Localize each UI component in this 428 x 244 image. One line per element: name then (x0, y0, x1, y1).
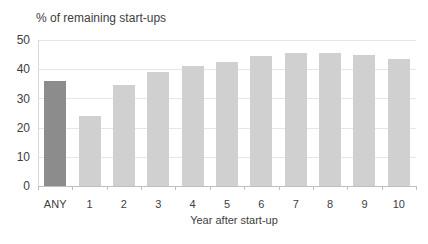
bar-3 (147, 72, 169, 186)
x-tick-mark (244, 186, 245, 190)
x-tick-mark (382, 186, 383, 190)
x-axis-line (38, 186, 416, 187)
bar-9 (353, 55, 375, 186)
x-tick-label-5: 5 (210, 198, 244, 210)
x-tick-label-7: 7 (279, 198, 313, 210)
gridline-50 (38, 40, 416, 41)
y-tick-0: 0 (0, 179, 30, 193)
x-tick-label-any: ANY (38, 198, 72, 210)
x-tick-label-2: 2 (107, 198, 141, 210)
x-tick-mark (141, 186, 142, 190)
x-tick-mark (72, 186, 73, 190)
bar-4 (182, 66, 204, 186)
y-tick-20: 20 (0, 121, 30, 135)
x-tick-mark (175, 186, 176, 190)
x-tick-mark (416, 186, 417, 190)
x-tick-mark (210, 186, 211, 190)
x-tick-mark (38, 186, 39, 190)
x-tick-label-8: 8 (313, 198, 347, 210)
y-axis-line (38, 40, 39, 186)
x-tick-label-1: 1 (73, 198, 107, 210)
x-tick-label-10: 10 (382, 198, 416, 210)
y-tick-50: 50 (0, 33, 30, 47)
x-axis-title: Year after start-up (0, 214, 428, 226)
x-tick-label-3: 3 (141, 198, 175, 210)
bar-any (44, 81, 66, 186)
y-tick-30: 30 (0, 92, 30, 106)
x-tick-label-4: 4 (176, 198, 210, 210)
x-tick-mark (347, 186, 348, 190)
bar-8 (319, 53, 341, 186)
y-tick-10: 10 (0, 150, 30, 164)
bar-7 (285, 53, 307, 186)
x-tick-mark (107, 186, 108, 190)
x-tick-label-6: 6 (244, 198, 278, 210)
x-tick-mark (279, 186, 280, 190)
x-tick-label-9: 9 (347, 198, 381, 210)
bar-2 (113, 85, 135, 186)
plot-area (38, 40, 416, 186)
chart-title: % of remaining start-ups (36, 11, 166, 25)
bar-5 (216, 62, 238, 186)
x-tick-mark (313, 186, 314, 190)
bar-1 (79, 116, 101, 186)
bar-6 (250, 56, 272, 186)
bar-10 (388, 59, 410, 186)
y-tick-40: 40 (0, 62, 30, 76)
